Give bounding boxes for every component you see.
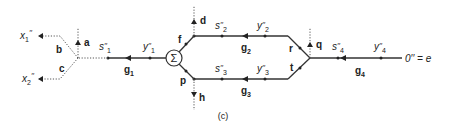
- sum-node: Σ: [166, 50, 182, 66]
- gain-g4: g4: [355, 65, 365, 78]
- node-h: h: [199, 92, 205, 103]
- signal-flow-diagram: Σ x1′′ x2′′ a b c d f p h q r t s′′1 y′′…: [0, 0, 453, 129]
- svg-text:Σ: Σ: [171, 52, 178, 64]
- node-t: t: [290, 62, 294, 73]
- gain-g1: g1: [124, 64, 134, 77]
- gain-g2: g2: [241, 42, 251, 55]
- edge-g1: [107, 55, 167, 61]
- node-q: q: [316, 39, 322, 50]
- node-f: f: [178, 34, 182, 45]
- figure-caption: (c): [218, 111, 229, 121]
- arrow-left-icon: [38, 76, 43, 82]
- edge-q: [307, 28, 313, 58]
- edge-g4: [310, 55, 402, 61]
- arrow-up-icon: [307, 42, 313, 47]
- arrow-left-icon: [242, 76, 248, 82]
- arrow-left-icon: [242, 33, 248, 39]
- node-b: b: [56, 44, 62, 55]
- edge-c: [38, 58, 78, 82]
- node-r: r: [289, 43, 293, 54]
- signal-s4: s′′4: [332, 41, 344, 54]
- edge-g3: [193, 76, 289, 82]
- signal-y4: y′′4: [373, 41, 386, 54]
- node-c: c: [59, 63, 65, 74]
- output-x1: x1′′: [19, 28, 32, 43]
- arrow-left-icon: [38, 33, 43, 39]
- signal-s3: s′′3: [215, 63, 227, 76]
- signal-y2: y′′2: [256, 20, 269, 33]
- node-d: d: [200, 15, 206, 26]
- arrow-down-icon: [191, 92, 197, 97]
- gain-g3: g3: [241, 85, 251, 98]
- edge-h: [191, 79, 197, 110]
- signal-s1: s′′1: [99, 41, 111, 54]
- end-label: 0′′ = e: [405, 53, 432, 64]
- edge-d: [191, 6, 197, 36]
- output-x2: x2′′: [21, 71, 34, 86]
- node-p: p: [180, 75, 186, 86]
- edge-g2: [193, 33, 289, 39]
- signal-s2: s′′2: [215, 20, 227, 33]
- signal-y3: y′′3: [256, 63, 269, 76]
- arrow-up-icon: [191, 19, 197, 24]
- edge-a: [75, 28, 81, 58]
- arrow-left-icon: [125, 55, 131, 61]
- arrow-up-icon: [75, 40, 81, 45]
- signal-y1: y′′1: [142, 41, 155, 54]
- arrow-left-icon: [340, 55, 346, 61]
- node-a: a: [84, 37, 90, 48]
